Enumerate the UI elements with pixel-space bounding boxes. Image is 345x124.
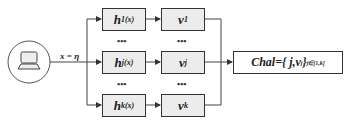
value-sub: 1 bbox=[184, 15, 188, 24]
value-box-k: vk bbox=[161, 94, 205, 117]
hash-sub: k(x) bbox=[121, 101, 134, 110]
edge-label-x-eta: x = η bbox=[60, 51, 79, 61]
hash-function-box-1: h1(x) bbox=[102, 8, 146, 31]
ellipsis-h-upper: ••• bbox=[117, 36, 126, 46]
value-sub: k bbox=[184, 101, 188, 110]
ellipsis-v-upper: ••• bbox=[177, 36, 186, 46]
hash-base: h bbox=[114, 98, 121, 114]
hash-sub: j(x) bbox=[122, 58, 134, 67]
value-box-1: v1 bbox=[161, 8, 205, 31]
challenge-sub-outer: j∈[1,k] bbox=[307, 59, 325, 66]
ellipsis-v-lower: ••• bbox=[177, 79, 186, 89]
value-box-j: vj bbox=[161, 51, 205, 74]
hash-base: h bbox=[115, 55, 122, 71]
hash-base: h bbox=[114, 12, 121, 28]
challenge-text: Chal={ j,v bbox=[251, 55, 301, 70]
challenge-box: Chal={ j,vj }j∈[1,k] bbox=[233, 51, 343, 74]
value-sub: j bbox=[185, 58, 187, 67]
laptop-icon bbox=[18, 52, 40, 69]
ellipsis-h-lower: ••• bbox=[117, 79, 126, 89]
hash-sub: 1(x) bbox=[121, 15, 134, 24]
hash-function-box-k: hk(x) bbox=[102, 94, 146, 117]
hash-function-box-j: hj(x) bbox=[102, 51, 146, 74]
